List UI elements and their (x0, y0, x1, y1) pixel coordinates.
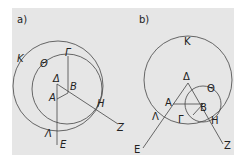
point-E: E (134, 144, 140, 155)
point-B: B (200, 102, 207, 113)
point-Z: Z (224, 140, 231, 151)
panel-b-label: b) (139, 14, 149, 25)
point-Theta: Θ (40, 58, 48, 69)
point-Gamma: Γ (178, 114, 184, 125)
point-H: H (97, 98, 105, 109)
point-Lambda: Λ (152, 111, 159, 122)
geometry-figure: a) K Θ Γ Δ B A H Z Λ E b) K Δ Θ A B Λ Γ … (0, 0, 248, 164)
point-Lambda: Λ (44, 128, 52, 139)
point-Delta: Δ (183, 71, 190, 82)
point-Theta: Θ (207, 83, 215, 94)
point-B: B (70, 81, 77, 92)
point-A: A (165, 97, 172, 108)
point-Z: Z (116, 122, 125, 133)
panel-a-label: a) (17, 14, 27, 25)
point-A: A (48, 92, 56, 103)
point-H: H (211, 115, 219, 126)
point-Delta: Δ (52, 73, 60, 84)
point-E: E (60, 139, 67, 150)
point-K: K (184, 36, 191, 47)
